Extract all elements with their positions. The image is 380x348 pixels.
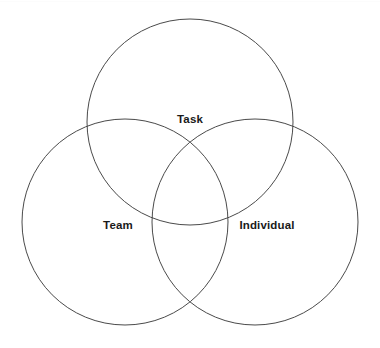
label-individual: Individual [239,219,294,231]
label-team: Team [103,219,133,231]
venn-diagram-canvas: Task Team Individual [0,0,380,348]
label-task: Task [177,113,203,125]
venn-diagram: Task Team Individual [0,0,380,348]
